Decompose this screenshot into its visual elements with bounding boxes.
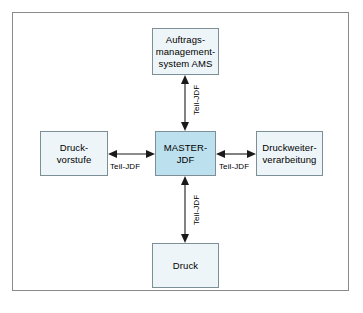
node-master-jdf[interactable]: MASTER- JDF [155,131,216,176]
node-auftragsmanagementsystem-ams[interactable]: Auftrags- management- system AMS [152,28,219,75]
node-druckweiterverarbeitung[interactable]: Druckweiter- verarbeitung [256,131,323,176]
connector-center-to-postpress [216,147,256,161]
connector-center-to-print [178,176,192,243]
connector-center-to-ams [178,75,192,131]
diagram-canvas: Teil-JDF Teil-JDF Teil-JDF Teil-JDF Auft… [0,0,363,313]
connector-label-bottom: Teil-JDF [192,195,201,225]
node-druckvorstufe[interactable]: Druck- vorstufe [40,131,108,176]
connector-label-top: Teil-JDF [192,85,201,115]
connector-center-to-prepress [108,147,155,161]
connector-label-left: Teil-JDF [110,162,140,171]
node-druck[interactable]: Druck [152,243,219,288]
connector-label-right: Teil-JDF [219,162,249,171]
